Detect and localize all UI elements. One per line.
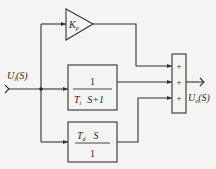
derivative-numerator: TdS xyxy=(77,130,99,142)
summer-sign-2: + xyxy=(176,77,181,87)
derivative-denominator: 1 xyxy=(90,148,95,159)
integral-denominator: TiS+1 xyxy=(74,94,104,106)
input-chevron-icon xyxy=(5,85,9,93)
junction-dot xyxy=(39,87,43,91)
summer-sign-1: + xyxy=(176,61,181,71)
output-label: Uo(S) xyxy=(188,92,211,104)
integral-numerator: 1 xyxy=(90,76,95,87)
pid-block-diagram: Ui(S) Kp 1 TiS+1 TdS 1 + + + Uo(S) xyxy=(0,0,216,169)
kp-output-line xyxy=(93,24,172,66)
input-label: Ui(S) xyxy=(7,70,28,82)
kp-label: Kp xyxy=(68,19,79,31)
summer-sign-3: + xyxy=(176,93,181,103)
derivative-output-line xyxy=(117,98,172,142)
